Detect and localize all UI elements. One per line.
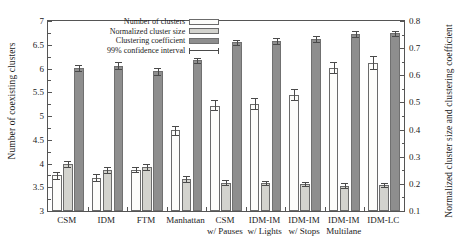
y-tick-label-right: 0.8: [409, 21, 420, 31]
bar[interactable]: [103, 170, 113, 211]
legend-item[interactable]: Number of clusters: [107, 17, 219, 27]
y-tick-label-left: 5.5: [33, 92, 44, 102]
bar[interactable]: [340, 186, 350, 211]
error-cap-lower: [392, 36, 399, 37]
bar[interactable]: [329, 68, 339, 211]
error-cap-lower: [132, 172, 139, 173]
bar[interactable]: [52, 175, 62, 211]
error-bar: [334, 62, 335, 73]
error-cap-upper: [211, 100, 218, 101]
error-cap-upper: [222, 180, 229, 181]
bar[interactable]: [272, 41, 282, 211]
x-axis-label-line1: FTM: [137, 215, 156, 225]
error-cap-lower: [172, 135, 179, 136]
error-cap-lower: [313, 42, 320, 43]
error-cap-upper: [341, 183, 348, 184]
chart-legend: Number of clustersNormalized cluster siz…: [107, 17, 219, 55]
bar[interactable]: [300, 184, 310, 211]
x-axis-label-line2: w/ Pauses: [205, 226, 245, 237]
y-tick-label-right: 0.3: [409, 157, 420, 167]
error-bar: [118, 62, 119, 70]
error-cap-upper: [53, 172, 60, 173]
bar[interactable]: [92, 178, 102, 211]
bar-group: [48, 21, 88, 211]
error-cap-upper: [183, 176, 190, 177]
x-axis-label-line1: CSM: [215, 215, 234, 225]
legend-label: Normalized cluster size: [110, 27, 186, 37]
error-bar: [215, 100, 216, 110]
y-axis-right-title: Normalized cluster size and clustering c…: [444, 21, 454, 221]
bar[interactable]: [368, 63, 378, 211]
legend-item[interactable]: Clustering coefficient: [107, 36, 219, 46]
error-bar: [294, 89, 295, 100]
x-axis-label-line2: w/ Stops: [284, 226, 324, 237]
bar[interactable]: [182, 179, 192, 211]
x-axis-label-line1: IDM-LC: [367, 215, 399, 225]
error-cap-lower: [194, 63, 201, 64]
x-axis-label: FTM: [126, 215, 166, 226]
x-axis-label-line1: Manhattan: [166, 215, 205, 225]
bar[interactable]: [311, 39, 321, 211]
error-cap-lower: [154, 75, 161, 76]
legend-item[interactable]: 99% confidence interval: [107, 46, 219, 56]
error-cap-lower: [104, 173, 111, 174]
error-cap-lower: [352, 37, 359, 38]
bar[interactable]: [351, 34, 361, 211]
error-cap-upper: [143, 164, 150, 165]
error-cap-lower: [341, 188, 348, 189]
bar[interactable]: [289, 95, 299, 211]
y-tick-label-left: 3.5: [33, 187, 44, 197]
bar[interactable]: [74, 68, 84, 211]
error-cap-upper: [381, 183, 388, 184]
legend-swatch: [189, 38, 219, 44]
error-cap-lower: [93, 181, 100, 182]
bar[interactable]: [390, 33, 400, 211]
bar[interactable]: [232, 42, 242, 211]
bar[interactable]: [171, 130, 181, 211]
bar[interactable]: [261, 183, 271, 211]
legend-item[interactable]: Normalized cluster size: [107, 27, 219, 37]
bar[interactable]: [210, 106, 220, 211]
error-cap-upper: [313, 36, 320, 37]
y-tick-mark-right: [400, 211, 404, 212]
bar[interactable]: [250, 104, 260, 211]
error-bar: [373, 56, 374, 69]
bar[interactable]: [131, 170, 141, 211]
error-bar: [158, 68, 159, 76]
x-axis-label-line1: IDM-IM: [288, 215, 320, 225]
error-bar: [255, 98, 256, 109]
error-cap-lower: [143, 170, 150, 171]
error-cap-upper: [302, 182, 309, 183]
y-axis-left-title: Number of coexisting clusters: [7, 26, 17, 176]
bar[interactable]: [142, 167, 152, 211]
error-cap-upper: [104, 167, 111, 168]
error-cap-upper: [154, 68, 161, 69]
bar[interactable]: [221, 183, 231, 212]
y-tick-label-right: 0.2: [409, 184, 420, 194]
error-cap-upper: [64, 161, 71, 162]
x-tick-mark: [404, 207, 405, 211]
x-axis-label-line1: IDM-IM: [328, 215, 360, 225]
bar[interactable]: [153, 71, 163, 211]
error-cap-lower: [53, 179, 60, 180]
error-cap-lower: [115, 69, 122, 70]
error-cap-upper: [291, 89, 298, 90]
error-bar: [175, 126, 176, 136]
bar[interactable]: [193, 60, 203, 211]
error-cap-lower: [370, 69, 377, 70]
error-cap-upper: [93, 174, 100, 175]
y-tick-label-left: 4.5: [33, 140, 44, 150]
confidence-interval-icon: [189, 48, 219, 54]
y-tick-mark-left: [48, 211, 52, 212]
bar[interactable]: [63, 164, 73, 211]
error-cap-upper: [75, 65, 82, 66]
error-cap-upper: [172, 126, 179, 127]
bar[interactable]: [114, 66, 124, 211]
bar-group: [364, 21, 404, 211]
bar-group: [285, 21, 325, 211]
bar[interactable]: [379, 185, 389, 211]
error-cap-lower: [251, 109, 258, 110]
error-cap-upper: [233, 40, 240, 41]
error-cap-upper: [370, 56, 377, 57]
y-tick-label-right: 0.7: [409, 48, 420, 58]
